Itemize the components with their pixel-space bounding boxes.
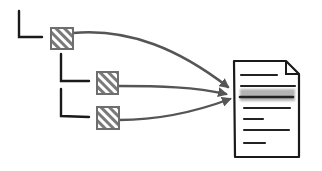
node-child-2[interactable] xyxy=(97,107,119,129)
arrow-child-1-to-document xyxy=(118,86,226,94)
arrow-child-2-to-document xyxy=(119,99,230,120)
diagram-canvas xyxy=(0,0,322,171)
node-root[interactable] xyxy=(51,28,73,49)
child-1-connector xyxy=(61,54,89,81)
document-icon xyxy=(234,61,299,157)
highlight-band xyxy=(240,89,295,101)
tree-connectors xyxy=(19,11,89,117)
child-2-connector xyxy=(61,89,89,117)
root-connector xyxy=(19,11,42,37)
node-child-1[interactable] xyxy=(97,72,118,94)
